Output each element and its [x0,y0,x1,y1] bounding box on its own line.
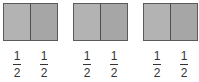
fraction-3-left: 1 2 [150,50,164,79]
rectangle-3 [143,3,198,41]
fraction-1-left: 1 2 [10,50,24,79]
fraction-2-left: 1 2 [80,50,94,79]
fraction-bar [153,64,161,65]
fraction-bar [40,64,48,65]
fraction-bar [110,64,118,65]
denominator: 2 [84,67,91,79]
fraction-3-right: 1 2 [177,50,191,79]
rectangle-1-left-half [4,4,31,40]
denominator: 2 [111,67,118,79]
rectangle-1 [3,3,58,41]
numerator: 1 [41,50,48,62]
numerator: 1 [84,50,91,62]
denominator: 2 [41,67,48,79]
rectangle-1-right-half [31,4,57,40]
numerator: 1 [181,50,188,62]
numerator: 1 [14,50,21,62]
denominator: 2 [14,67,21,79]
rectangle-3-left-half [144,4,171,40]
denominator: 2 [181,67,188,79]
numerator: 1 [111,50,118,62]
rectangle-2 [73,3,128,41]
rectangle-2-right-half [101,4,127,40]
fraction-1-right: 1 2 [37,50,51,79]
fraction-bar [180,64,188,65]
fraction-bar [83,64,91,65]
fraction-2-right: 1 2 [107,50,121,79]
fraction-bar [13,64,21,65]
denominator: 2 [154,67,161,79]
rectangle-2-left-half [74,4,101,40]
rectangle-3-right-half [171,4,197,40]
numerator: 1 [154,50,161,62]
